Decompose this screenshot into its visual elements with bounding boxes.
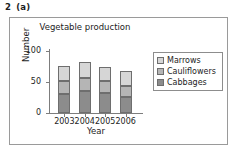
chart-frame: Vegetable production Number Year 050100 … xyxy=(9,17,228,145)
question-number: 2 xyxy=(5,2,11,12)
legend-label: Cabbages xyxy=(167,78,207,87)
stacked-bar xyxy=(79,51,91,113)
legend-label: Marrows xyxy=(167,56,201,65)
y-axis-line xyxy=(49,49,50,113)
y-tick: 100 xyxy=(46,51,49,52)
bar-segment-marrows xyxy=(120,71,132,87)
bar-segment-marrows xyxy=(79,62,91,79)
bar-segment-marrows xyxy=(99,67,111,81)
bar-segment-cauliflowers xyxy=(58,81,70,95)
bar-segment-cabbages xyxy=(99,93,111,113)
legend-swatch-icon xyxy=(157,57,164,64)
y-axis-label: Number xyxy=(21,28,31,62)
stacked-bar xyxy=(58,51,70,113)
bar-segment-cabbages xyxy=(120,97,132,113)
legend-label: Cauliflowers xyxy=(167,67,216,76)
y-tick: 50 xyxy=(46,82,49,83)
bar-segment-cauliflowers xyxy=(99,81,111,93)
bar-segment-marrows xyxy=(58,66,70,81)
x-tick-label: 2006 xyxy=(113,117,139,126)
legend-item: Cabbages xyxy=(157,77,219,88)
legend-swatch-icon xyxy=(157,68,164,75)
x-axis-line xyxy=(49,113,143,114)
legend-item: Cauliflowers xyxy=(157,66,219,77)
chart-title: Vegetable production xyxy=(10,22,160,32)
stacked-bar xyxy=(120,51,132,113)
bar-segment-cauliflowers xyxy=(120,86,132,97)
chart-legend: MarrowsCauliflowersCabbages xyxy=(153,52,223,91)
y-tick-label: 50 xyxy=(31,77,41,86)
bar-segment-cabbages xyxy=(79,91,91,113)
figure-page: 2(a) Vegetable production Number Year 05… xyxy=(0,0,236,154)
y-tick-label: 0 xyxy=(36,108,41,117)
stacked-bar xyxy=(99,51,111,113)
bar-segment-cauliflowers xyxy=(79,78,91,90)
legend-swatch-icon xyxy=(157,79,164,86)
question-label: 2(a) xyxy=(5,2,30,12)
plot-area: 050100 xyxy=(49,51,142,113)
x-axis-tick-labels: 2003200420052006 xyxy=(45,117,147,128)
y-tick-label: 100 xyxy=(26,46,41,55)
question-part: (a) xyxy=(16,2,30,12)
bar-segment-cabbages xyxy=(58,94,70,113)
y-tick: 0 xyxy=(46,113,49,114)
legend-item: Marrows xyxy=(157,55,219,66)
